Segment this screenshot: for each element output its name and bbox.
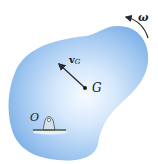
diagram-canvas: ω vG G O: [0, 0, 158, 164]
center-of-mass-dot: [83, 86, 87, 90]
omega-label: ω: [138, 12, 148, 23]
velocity-subscript: G: [75, 58, 81, 66]
pivot-label: O: [30, 112, 39, 123]
rigid-body-shape: [9, 26, 149, 160]
center-of-mass-label: G: [92, 82, 102, 94]
velocity-label: vG: [69, 55, 80, 66]
diagram-svg: [0, 0, 158, 164]
